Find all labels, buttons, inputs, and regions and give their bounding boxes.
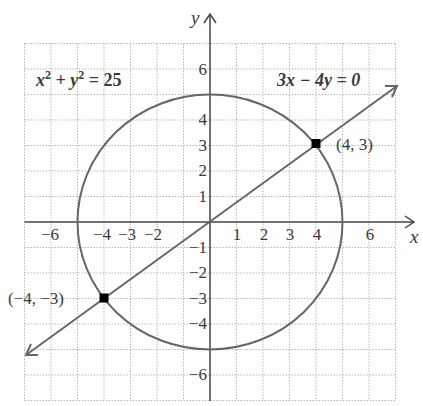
circle-equation-label: x2 + y2 = 25: [35, 68, 122, 90]
y-tick: −4: [189, 314, 208, 333]
x-tick: −6: [41, 225, 59, 244]
x-tick: −2: [144, 225, 162, 244]
y-tick: −1: [189, 238, 207, 257]
plot-area: x y −6 −4 −3 −2 1 2 3 4 6 6 4 3 2 1 −1 −…: [0, 0, 423, 406]
point-label-neg4-neg3: (−4, −3): [8, 289, 64, 308]
line-equation-label: 3x − 4y = 0: [276, 70, 360, 90]
chart-container: x y −6 −4 −3 −2 1 2 3 4 6 6 4 3 2 1 −1 −…: [0, 0, 423, 406]
y-axis-label: y: [189, 7, 200, 28]
x-tick: −3: [118, 225, 136, 244]
x-tick: 3: [286, 225, 295, 244]
y-tick: 6: [199, 60, 208, 79]
x-axis-label: x: [409, 226, 419, 247]
y-tick: −2: [189, 263, 207, 282]
y-tick: 1: [199, 187, 208, 206]
point-neg4-neg3: [100, 294, 109, 303]
y-tick: 4: [199, 110, 208, 129]
y-tick: 3: [199, 136, 208, 155]
x-tick: 1: [233, 225, 242, 244]
x-tick: −4: [93, 225, 112, 244]
y-tick: −6: [189, 365, 207, 384]
x-tick: 4: [313, 225, 322, 244]
point-label-4-3: (4, 3): [336, 135, 373, 154]
y-tick: −3: [189, 289, 207, 308]
point-4-3: [312, 139, 321, 148]
x-tick: 6: [366, 225, 375, 244]
y-tick: 2: [199, 161, 208, 180]
line-curve: [26, 86, 397, 355]
x-tick: 2: [260, 225, 269, 244]
